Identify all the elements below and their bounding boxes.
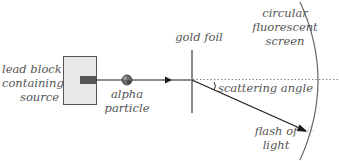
flash-of-light-label: flash of light — [250, 124, 302, 152]
beam-arrowhead-icon — [165, 77, 172, 84]
lead-block-label-line-3: source — [2, 90, 59, 104]
scattering-angle-arc — [214, 82, 216, 90]
flash-label-line-1: flash of — [250, 124, 302, 138]
flash-label-line-2: light — [250, 138, 302, 152]
screen-label: circular fluorescent screen — [252, 6, 318, 48]
alpha-particle-label: alpha particle — [104, 87, 150, 115]
screen-label-line-2: fluorescent — [252, 20, 318, 34]
lead-block-label-line-2: containing — [2, 76, 59, 90]
rutherford-diagram: lead block containing source alpha parti… — [0, 0, 339, 161]
lead-block-label-line-1: lead block — [2, 62, 59, 76]
gold-foil-label: gold foil — [172, 30, 226, 44]
screen-label-line-1: circular — [252, 6, 318, 20]
alpha-particle-icon — [122, 75, 132, 85]
screen-label-line-3: screen — [252, 34, 318, 48]
scattering-angle-label: scattering angle — [218, 81, 313, 95]
radioactive-source — [80, 76, 96, 84]
alpha-particle-label-line-2: particle — [104, 101, 150, 115]
lead-block-label: lead block containing source — [2, 62, 59, 104]
alpha-particle-label-line-1: alpha — [104, 87, 150, 101]
